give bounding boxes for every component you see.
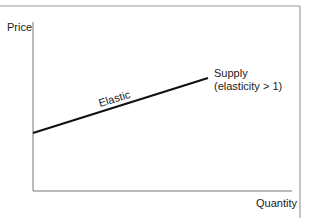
y-axis-label: Price	[7, 21, 32, 33]
supply-chart: Price Quantity Elastic Supply (elasticit…	[0, 0, 311, 218]
elasticity-label: (elasticity > 1)	[214, 80, 282, 92]
supply-curve	[33, 78, 208, 133]
elastic-label: Elastic	[97, 88, 132, 109]
x-axis-label: Quantity	[256, 197, 297, 209]
supply-label: Supply	[214, 67, 248, 79]
